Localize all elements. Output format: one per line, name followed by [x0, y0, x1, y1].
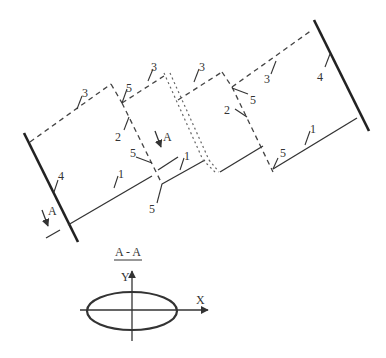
label-2-b: 2: [224, 103, 230, 117]
section-view: A - A Y X: [80, 245, 208, 341]
label-3-a: 3: [82, 86, 88, 100]
section-marker-right: A: [155, 130, 172, 147]
label-3-b: 3: [151, 60, 157, 74]
section-title: A - A: [115, 245, 141, 259]
upper-members: [30, 30, 312, 142]
arrow-down-icon: [155, 131, 161, 147]
section-marker-left: A: [42, 204, 57, 226]
label-3-d: 3: [264, 72, 270, 86]
label-5-b: 5: [130, 146, 136, 160]
y-axis-label: Y: [121, 270, 130, 284]
diagram-canvas: 1 1 1 2 2 3 3 3 3 4 4 5 5 5 5 5 A A A - …: [0, 0, 386, 358]
label-5-e: 5: [280, 146, 286, 160]
label-1-a: 1: [118, 167, 124, 181]
svg-text:A: A: [163, 130, 172, 144]
label-4-b: 4: [317, 70, 323, 84]
label-1-c: 1: [310, 122, 316, 136]
dotted-members: [164, 73, 219, 172]
label-2-a: 2: [115, 130, 121, 144]
label-5-d: 5: [250, 93, 256, 107]
x-axis-label: X: [196, 293, 205, 307]
leader-lines: [54, 54, 330, 203]
lower-members: [46, 118, 357, 238]
label-5-a: 5: [126, 81, 132, 95]
svg-text:A: A: [48, 204, 57, 218]
end-plate-left: [24, 133, 78, 242]
label-5-c: 5: [149, 202, 155, 216]
label-1-b: 1: [184, 149, 190, 163]
label-3-c: 3: [199, 60, 205, 74]
number-labels: 1 1 1 2 2 3 3 3 3 4 4 5 5 5 5 5: [58, 60, 323, 216]
label-4-a: 4: [58, 169, 64, 183]
